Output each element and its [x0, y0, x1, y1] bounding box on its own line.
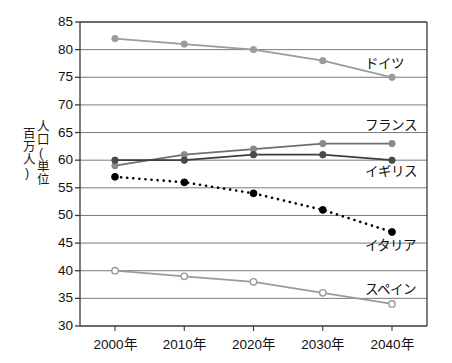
data-point-marker [389, 74, 395, 80]
data-point-marker [181, 273, 187, 279]
data-point-marker [181, 41, 187, 47]
y-tick-label: 35 [43, 291, 73, 305]
series-label-0: ドイツ [365, 57, 404, 71]
y-tick-label: 75 [43, 70, 73, 84]
data-point-marker [389, 301, 395, 307]
y-tick-label: 65 [43, 126, 73, 140]
series-line-0 [115, 39, 392, 78]
series-label-2: イギリス [365, 165, 417, 179]
data-point-marker [181, 179, 188, 186]
data-point-marker [320, 140, 326, 146]
data-point-marker [181, 157, 187, 163]
y-tick-label: 45 [43, 236, 73, 250]
x-tick-label: 2010年 [151, 338, 217, 352]
y-tick-label: 80 [43, 43, 73, 57]
x-tick-label: 2000年 [82, 338, 148, 352]
y-tick-label: 85 [43, 15, 73, 29]
series-line-3 [115, 177, 392, 232]
data-point-marker [320, 290, 326, 296]
y-tick-label: 40 [43, 264, 73, 278]
data-point-marker [389, 140, 395, 146]
data-point-marker [320, 58, 326, 64]
y-tick-label: 50 [43, 208, 73, 222]
y-tick-label: 30 [43, 319, 73, 333]
data-point-marker [250, 152, 256, 158]
y-tick-label: 70 [43, 98, 73, 112]
x-tick-label: 2040年 [359, 338, 425, 352]
data-point-marker [250, 46, 256, 52]
data-point-marker [112, 157, 118, 163]
x-tick-label: 2030年 [290, 338, 356, 352]
data-point-marker [250, 279, 256, 285]
series-line-4 [115, 271, 392, 304]
data-point-marker [319, 207, 326, 214]
x-tick-label: 2020年 [221, 338, 287, 352]
data-point-marker [112, 173, 119, 180]
data-point-marker [389, 157, 395, 163]
data-point-marker [320, 152, 326, 158]
data-point-marker [250, 190, 257, 197]
series-label-3: イタリア [365, 239, 416, 253]
data-point-marker [112, 268, 118, 274]
series-label-1: フランス [365, 119, 417, 133]
y-tick-label: 60 [43, 153, 73, 167]
data-point-marker [112, 35, 118, 41]
population-line-chart: 人口(単位 百万人) 8580757065605550454035302000年… [0, 0, 452, 363]
data-point-marker [389, 229, 396, 236]
series-label-4: スペイン [365, 283, 416, 297]
y-tick-label: 55 [43, 181, 73, 195]
